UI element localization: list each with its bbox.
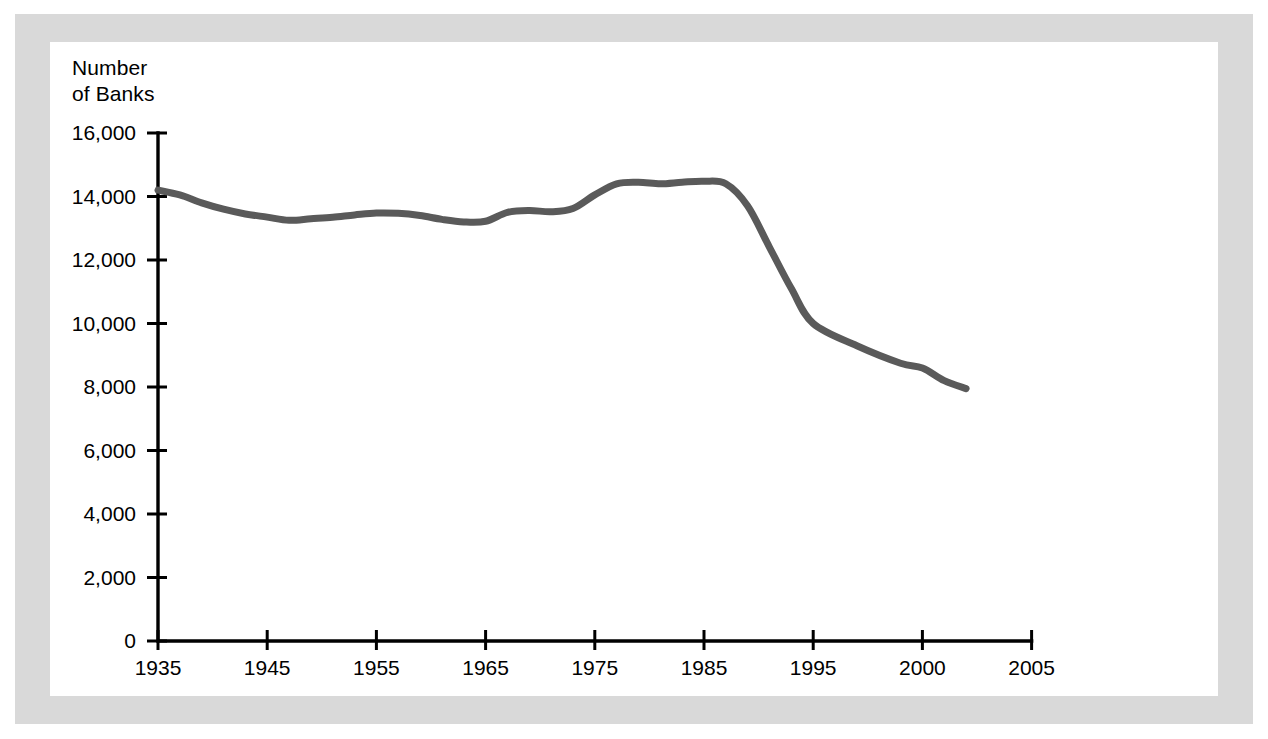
y-axis-tick-label: 14,000 (72, 185, 136, 208)
y-axis-tick-labels: 02,0004,0006,0008,00010,00012,00014,0001… (72, 121, 136, 652)
y-axis-tick-label: 4,000 (83, 502, 136, 525)
x-axis-tick-label: 1975 (571, 656, 618, 679)
x-axis-tick-label: 1945 (244, 656, 291, 679)
figure-container: Number of Banks 02,0004,0006,0008,00010,… (0, 0, 1268, 739)
x-axis-tick-label: 2000 (899, 656, 946, 679)
y-axis-tick-label: 16,000 (72, 121, 136, 144)
y-axis-tick-label: 6,000 (83, 439, 136, 462)
x-axis-tick-labels: 193519451955196519751985199520002005 (135, 656, 1055, 679)
y-axis-tick-label: 8,000 (83, 375, 136, 398)
x-axis-tick-label: 1955 (353, 656, 400, 679)
x-axis-tick-label: 1985 (681, 656, 728, 679)
line-chart: 02,0004,0006,0008,00010,00012,00014,0001… (0, 0, 1268, 739)
y-axis-tick-label: 12,000 (72, 248, 136, 271)
x-axis-tick-label: 2005 (1008, 656, 1055, 679)
y-axis-tick-label: 2,000 (83, 566, 136, 589)
y-axis-tick-label: 10,000 (72, 312, 136, 335)
x-axis-tick-label: 1995 (790, 656, 837, 679)
x-axis-tick-label: 1965 (462, 656, 509, 679)
data-series-line (158, 181, 966, 389)
y-axis-tick-label: 0 (124, 629, 136, 652)
x-axis-tick-label: 1935 (135, 656, 182, 679)
chart-axes (158, 133, 1032, 641)
